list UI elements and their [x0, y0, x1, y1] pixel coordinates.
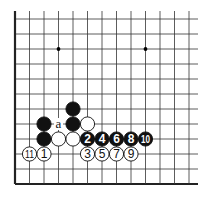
black-stone — [66, 117, 80, 131]
star-point — [144, 47, 148, 51]
move-number: 6 — [113, 132, 120, 146]
move-number: 1 — [41, 147, 48, 161]
black-stone: 6 — [109, 132, 123, 146]
move-number: 10 — [141, 134, 150, 145]
move-number: 5 — [99, 147, 106, 161]
white-stone: 7 — [109, 147, 123, 161]
point-marker-a: a — [54, 116, 63, 131]
markers: a — [54, 116, 63, 131]
black-stone: 10 — [138, 132, 152, 146]
white-stone: 9 — [124, 147, 138, 161]
white-stone: 5 — [95, 147, 109, 161]
white-stone — [80, 117, 94, 131]
move-number: 3 — [84, 147, 91, 161]
black-stone — [66, 102, 80, 116]
black-stone — [37, 117, 51, 131]
black-stone: 8 — [124, 132, 138, 146]
black-stone: 2 — [80, 132, 94, 146]
move-number: 2 — [84, 132, 91, 146]
move-number: 11 — [25, 149, 34, 160]
move-number: 8 — [128, 132, 135, 146]
star-point — [57, 47, 61, 51]
white-stone — [51, 132, 65, 146]
white-stone — [66, 132, 80, 146]
move-number: 4 — [99, 132, 106, 146]
white-stone: 1 — [37, 147, 51, 161]
move-number: 7 — [113, 147, 120, 161]
white-stone: 3 — [80, 147, 94, 161]
white-stone: 11 — [22, 147, 36, 161]
black-stone — [37, 132, 51, 146]
go-board: 2468101113579 a — [0, 0, 208, 201]
black-stone: 4 — [95, 132, 109, 146]
svg-text:a: a — [56, 116, 62, 131]
move-number: 9 — [128, 147, 135, 161]
